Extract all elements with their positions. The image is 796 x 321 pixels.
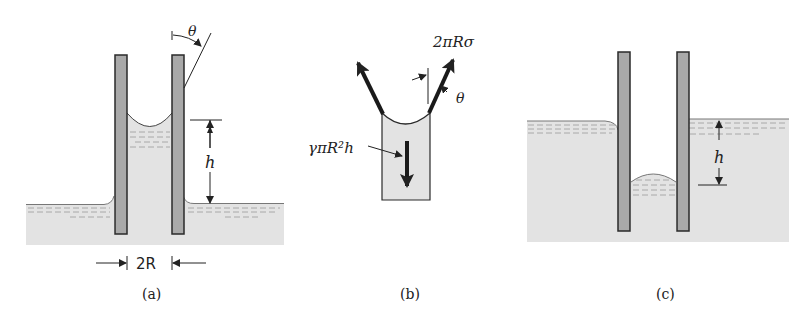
caption-b: (b) bbox=[400, 286, 420, 302]
surface-force-label: 2πRσ bbox=[432, 33, 475, 51]
weight-label: γπR²h bbox=[308, 139, 354, 157]
capillary-figure: θ h 2R (a) 2πRσ θ γπR²h (b) bbox=[0, 0, 796, 321]
tube-wall-left bbox=[115, 55, 127, 234]
tube-wall-left-c bbox=[618, 52, 630, 231]
panel-a: θ h 2R (a) bbox=[26, 23, 284, 302]
contact-angle-label-b: θ bbox=[456, 90, 465, 106]
caption-c: (c) bbox=[656, 286, 675, 302]
height-label-a: h bbox=[205, 153, 215, 172]
panel-b: 2πRσ θ γπR²h (b) bbox=[308, 33, 475, 302]
liquid-column-depressed bbox=[631, 174, 676, 231]
tube-wall-right-c bbox=[677, 52, 689, 231]
liquid-column-risen bbox=[127, 113, 172, 234]
panel-c: h (c) bbox=[527, 52, 789, 302]
contact-angle-label-a: θ bbox=[188, 23, 197, 39]
caption-a: (a) bbox=[142, 286, 161, 302]
tube-wall-right bbox=[172, 55, 184, 234]
height-label-c: h bbox=[714, 148, 724, 167]
diameter-label: 2R bbox=[136, 255, 156, 273]
